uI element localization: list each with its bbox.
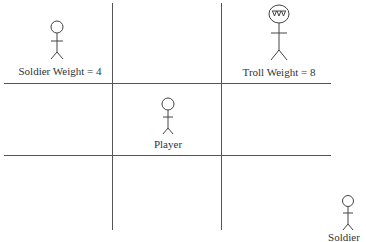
soldier-offgrid-stick-figure-icon [337,195,359,233]
grid-line-vertical-right [221,3,222,230]
grid-line-horizontal-bottom [4,155,331,156]
player-stick-figure-icon [156,97,180,137]
player-label: Player [144,138,192,151]
soldier-weight-label: Soldier Weight = 4 [18,65,102,78]
soldier-stick-figure-icon [45,20,69,62]
grid-diagram: Soldier Weight = 4 Troll Weight = 8 Play… [0,0,366,242]
grid-line-horizontal-top [4,83,331,84]
troll-stick-figure-icon [264,3,294,63]
grid-line-vertical-left [112,3,113,230]
soldier-offgrid-label-text1: Soldier [328,231,360,242]
troll-weight-label: Troll Weight = 8 [238,66,320,79]
soldier-offgrid-label: Soldier [322,231,366,242]
